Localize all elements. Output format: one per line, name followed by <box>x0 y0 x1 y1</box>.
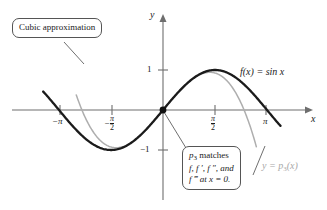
leader-line-p3-matches <box>164 112 186 148</box>
callout-p3-matches: p3 matches f, f ′, f ″, and f ‴ at x = 0… <box>182 146 241 190</box>
y-tick-label-1: 1 <box>147 65 152 74</box>
callout-p3-line-3: f ‴ at x = 0. <box>189 174 234 186</box>
callout-p3-line-1: p3 matches <box>189 150 234 163</box>
callout-cubic-approximation: Cubic approximation <box>12 18 102 38</box>
x-tick-label-neg-half-pi: −π2 <box>104 115 114 133</box>
p3-label-lead: y = p <box>262 160 283 171</box>
sine-curve-label: f(x) = sin x <box>240 66 284 77</box>
y-axis-arrowhead <box>160 14 167 22</box>
x-tick-label-neg-pi: −π <box>52 117 63 126</box>
fraction-numerator: π <box>110 115 114 123</box>
f-triple-prime: f ‴ <box>189 174 198 184</box>
p3-curve-label: y = p3(x) <box>262 160 298 173</box>
x-tick-label-pi: π <box>263 117 268 126</box>
fraction-numerator: π <box>211 115 215 123</box>
origin-point <box>160 107 167 114</box>
fraction-neg-half-pi: π2 <box>110 115 114 133</box>
y-tick-label-neg1: −1 <box>140 145 150 154</box>
p3-matches-word: matches <box>197 150 229 160</box>
y-axis-label: y <box>150 10 154 20</box>
fraction-half-pi: π2 <box>211 115 215 133</box>
x-tick-text-pi: π <box>263 116 268 126</box>
x-tick-label-half-pi: π2 <box>211 115 215 133</box>
fraction-denominator: 2 <box>211 123 215 132</box>
figure-container: y x 1 −1 −π −π2 π2 π Cubic approximation… <box>0 0 327 210</box>
x-tick-text-neg-pi: −π <box>52 116 63 126</box>
fraction-denominator: 2 <box>110 123 114 132</box>
leader-line-cubic-approximation <box>64 42 84 64</box>
at-x-equals-zero: at x = 0. <box>198 174 231 184</box>
sine-label-rest: (x) = sin x <box>243 66 284 77</box>
callout-p3-line-2: f, f ′, f ″, and <box>189 163 234 175</box>
p3-label-tail: (x) <box>287 160 298 171</box>
x-axis-label: x <box>311 114 315 124</box>
callout-cubic-approximation-text: Cubic approximation <box>19 22 95 32</box>
